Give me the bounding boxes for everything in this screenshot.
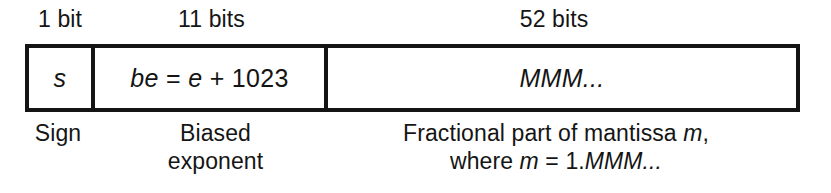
caption-mantissa-line1: Fractional part of mantissa m,	[336, 119, 776, 147]
caption-mantissa-line1-text: Fractional part of mantissa	[403, 120, 683, 146]
caption-mantissa-line2-symbol-m: m	[520, 148, 539, 174]
exponent-symbol-e: e	[188, 64, 202, 92]
caption-mantissa-line2: where m = 1.MMM...	[336, 147, 776, 175]
exponent-equals: =	[159, 64, 188, 92]
caption-mantissa-symbol-m: m	[683, 120, 702, 146]
caption-biased-exponent: Biased exponent	[100, 119, 331, 175]
bitwidth-label-mantissa: 52 bits	[329, 6, 779, 32]
caption-sign-line1: Sign	[22, 119, 94, 147]
caption-biased-exponent-line2: exponent	[100, 147, 331, 175]
caption-mantissa-line2-equals: = 1.	[539, 148, 585, 174]
field-cell-biased-exponent: be = e + 1023	[95, 48, 328, 108]
field-cell-sign: s	[29, 48, 95, 108]
field-cell-biased-exponent-text: be = e + 1023	[130, 64, 288, 92]
field-cell-sign-text: s	[54, 64, 67, 92]
caption-mantissa-line1-comma: ,	[702, 120, 709, 146]
caption-sign: Sign	[22, 119, 94, 147]
caption-mantissa-line2-where: where	[450, 148, 520, 174]
bit-field-box: s be = e + 1023 MMM...	[25, 44, 800, 112]
exponent-symbol-be: be	[130, 64, 158, 92]
field-cell-mantissa: MMM...	[328, 48, 796, 108]
exponent-bias-value: + 1023	[202, 64, 288, 92]
float-format-diagram: 1 bit 11 bits 52 bits s be = e + 1023 MM…	[0, 0, 831, 193]
caption-biased-exponent-line1: Biased	[100, 119, 331, 147]
bitwidth-label-exponent: 11 bits	[96, 6, 327, 32]
caption-mantissa-line2-mmm: MMM...	[585, 148, 662, 174]
field-cell-mantissa-text: MMM...	[519, 64, 604, 92]
caption-mantissa: Fractional part of mantissa m, where m =…	[336, 119, 776, 175]
bitwidth-label-sign: 1 bit	[25, 6, 95, 32]
